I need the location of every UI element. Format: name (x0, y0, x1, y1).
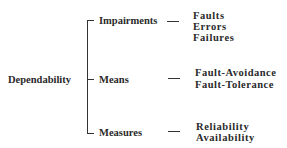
leaf-errors: Errors (193, 21, 227, 32)
dependability-tree-diagram: Dependability Impairments Means Measures… (0, 0, 287, 148)
leaf-failures: Failures (193, 32, 234, 43)
leaf-reliability: Reliability (196, 121, 249, 132)
branch-means: Means (99, 74, 129, 85)
connector-means (168, 78, 180, 79)
branch-impairments: Impairments (99, 15, 157, 26)
leaf-fault-avoidance: Fault-Avoidance (195, 67, 276, 78)
branch-measures: Measures (99, 127, 142, 138)
bracket-tick-measures (87, 133, 94, 134)
leaf-availability: Availability (196, 132, 255, 143)
bracket-tick-means (87, 79, 94, 80)
connector-measures (168, 131, 180, 132)
connector-impairments (167, 21, 179, 22)
root-node: Dependability (8, 74, 71, 85)
leaf-faults: Faults (193, 10, 225, 21)
bracket-tick-impairments (87, 20, 94, 21)
leaf-fault-tolerance: Fault-Tolerance (195, 79, 274, 90)
bracket-vertical-line (87, 20, 88, 134)
